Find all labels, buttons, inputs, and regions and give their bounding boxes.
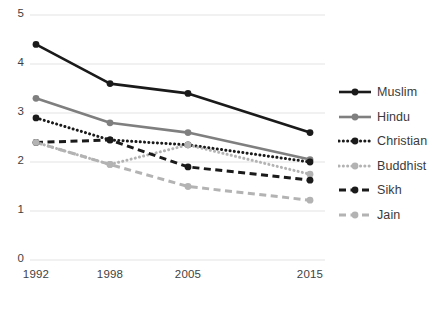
legend-label: Jain [377,208,400,222]
y-tick-label-5: 5 [2,7,24,19]
data-point-jain-2005 [185,183,192,190]
y-tick-label-4: 4 [2,56,24,68]
series-lines [36,44,310,200]
legend-swatch-buddhist-icon [338,159,372,173]
x-tick-label-2005: 2005 [163,268,213,280]
y-tick-label-1: 1 [2,203,24,215]
data-point-sikh-1998 [107,137,114,144]
legend-label: Christian [377,134,427,148]
legend-label: Buddhist [377,159,426,173]
legend-swatch-jain-icon [338,208,372,222]
data-point-christian-1992 [33,115,40,122]
data-point-hindu-1992 [33,95,40,102]
data-point-hindu-1998 [107,119,114,126]
legend-swatch-christian-icon [338,134,372,148]
data-point-jain-1992 [33,139,40,146]
legend-item-muslim[interactable]: Muslim [338,80,434,105]
data-point-jain-2015 [307,197,314,204]
series-line-muslim [36,44,310,132]
legend-item-hindu[interactable]: Hindu [338,105,434,130]
data-point-muslim-2005 [185,90,192,97]
x-tick-label-2015: 2015 [285,268,335,280]
y-tick-label-0: 0 [2,252,24,264]
series-line-buddhist [36,142,310,174]
legend-item-christian[interactable]: Christian [338,129,434,154]
legend-swatch-hindu-icon [338,110,372,124]
data-point-muslim-2015 [307,129,314,136]
data-point-sikh-2015 [307,177,314,184]
legend-label: Sikh [377,183,402,197]
legend-item-sikh[interactable]: Sikh [338,178,434,203]
y-tick-label-2: 2 [2,154,24,166]
legend-label: Hindu [377,110,410,124]
legend-swatch-muslim-icon [338,85,372,99]
data-point-hindu-2005 [185,129,192,136]
legend-label: Muslim [377,85,417,99]
chart-legend: MuslimHinduChristianBuddhistSikhJain [338,80,434,227]
x-tick-label-1998: 1998 [85,268,135,280]
gridlines [30,15,325,260]
data-point-christian-2015 [307,159,314,166]
legend-item-jain[interactable]: Jain [338,203,434,228]
y-tick-label-3: 3 [2,105,24,117]
data-point-muslim-1992 [33,41,40,48]
line-chart: 012345 1992199820052015 MuslimHinduChris… [0,0,434,310]
data-point-muslim-1998 [107,80,114,87]
x-tick-label-1992: 1992 [11,268,61,280]
data-point-buddhist-2015 [307,171,314,178]
legend-swatch-sikh-icon [338,183,372,197]
data-point-sikh-2005 [185,164,192,171]
data-point-jain-1998 [107,161,114,168]
data-point-buddhist-2005 [185,141,192,148]
series-line-sikh [36,140,310,180]
legend-item-buddhist[interactable]: Buddhist [338,154,434,179]
